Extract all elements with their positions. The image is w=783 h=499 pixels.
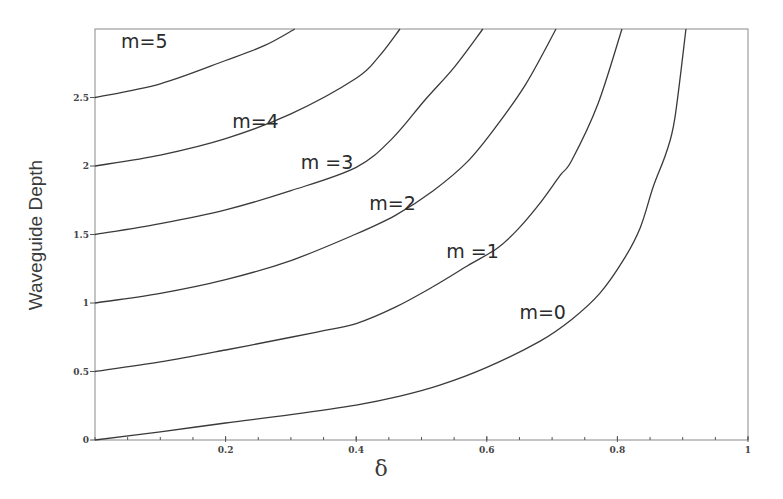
y-tick-label: 2 (83, 161, 89, 171)
mode-curves (95, 29, 686, 440)
y-tick-label: 0.5 (73, 367, 89, 377)
mode-label: m =3 (301, 151, 354, 173)
y-tick-label: 1 (83, 298, 89, 308)
mode-curve-m-3 (95, 29, 483, 235)
x-tick-label: 0.8 (610, 445, 626, 455)
y-axis-ticks: 00.511.522.5 (73, 93, 95, 446)
x-tick-label: 1 (745, 445, 751, 455)
waveguide-mode-chart: 0.20.40.60.81 00.511.522.5 m=5m=4m =3m=2… (0, 0, 783, 499)
x-tick-label: 0.6 (479, 445, 495, 455)
y-tick-label: 0 (83, 435, 89, 445)
mode-label: m=5 (121, 30, 168, 52)
y-tick-label: 2.5 (73, 93, 89, 103)
x-axis-ticks: 0.20.40.60.81 (95, 436, 751, 455)
x-axis-title: δ (374, 456, 387, 481)
mode-label: m=4 (232, 110, 279, 132)
mode-label: m =1 (446, 240, 499, 262)
x-tick-label: 0.4 (348, 445, 364, 455)
mode-curve-m-0 (95, 29, 686, 440)
x-tick-label: 0.2 (218, 445, 234, 455)
y-axis-title: Waveguide Depth (25, 160, 46, 310)
mode-label: m=2 (369, 192, 416, 214)
y-tick-label: 1.5 (73, 230, 89, 240)
plot-frame (95, 29, 748, 440)
mode-label: m=0 (519, 301, 566, 323)
